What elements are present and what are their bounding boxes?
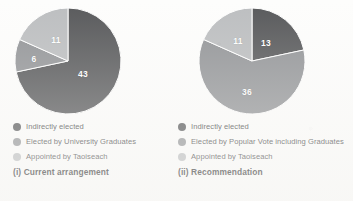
legend-swatch-icon [13,153,21,161]
pie-slices-group [198,7,306,115]
chart-panel-current-arrangement: 43 6 11 Indirectly elected Elected by Un… [0,0,176,201]
legend-item-indirectly-elected: Indirectly elected [178,119,353,134]
legend-current-arrangement: Indirectly elected Elected by University… [13,119,173,164]
slice-value-label-indirectly-elected: 13 [261,38,271,48]
legend-item-university-graduates: Elected by University Graduates [13,134,173,149]
legend-item-label: Appointed by Taoiseach [26,153,108,161]
legend-item-indirectly-elected: Indirectly elected [13,119,173,134]
legend-item-label: Indirectly elected [191,123,249,131]
legend-swatch-icon [178,123,186,131]
legend-item-label: Indirectly elected [26,123,84,131]
pie-svg [14,7,122,115]
legend-item-appointed-taoiseach: Appointed by Taoiseach [178,149,353,164]
legend-item-label: Appointed by Taoiseach [191,153,273,161]
legend-item-label: Elected by University Graduates [26,138,136,146]
legend-item-label: Elected by Popular Vote including Gradua… [191,138,344,146]
legend-swatch-icon [13,138,21,146]
slice-value-label-appointed-taoiseach: 11 [51,35,60,45]
chart-caption-current-arrangement: (i) Current arrangement [13,167,109,177]
legend-item-popular-vote: Elected by Popular Vote including Gradua… [178,134,353,149]
chart-panel-recommendation: 13 36 11 Indirectly elected Elected by P… [176,0,353,201]
legend-swatch-icon [13,123,21,131]
pie-svg [198,7,306,115]
legend-swatch-icon [178,153,186,161]
slice-value-label-appointed-taoiseach: 11 [233,36,242,46]
slice-value-label-indirectly-elected: 43 [78,69,88,79]
slice-value-label-popular-vote: 36 [242,87,252,97]
pie-chart-current-arrangement: 43 6 11 [14,7,122,115]
slice-value-label-university-graduates: 6 [32,54,37,64]
pie-slices-group [14,7,122,115]
chart-caption-recommendation: (ii) Recommendation [178,167,263,177]
legend-item-appointed-taoiseach: Appointed by Taoiseach [13,149,173,164]
legend-recommendation: Indirectly elected Elected by Popular Vo… [178,119,353,164]
pie-chart-figure: 43 6 11 Indirectly elected Elected by Un… [0,0,353,201]
pie-chart-recommendation: 13 36 11 [198,7,306,115]
legend-swatch-icon [178,138,186,146]
